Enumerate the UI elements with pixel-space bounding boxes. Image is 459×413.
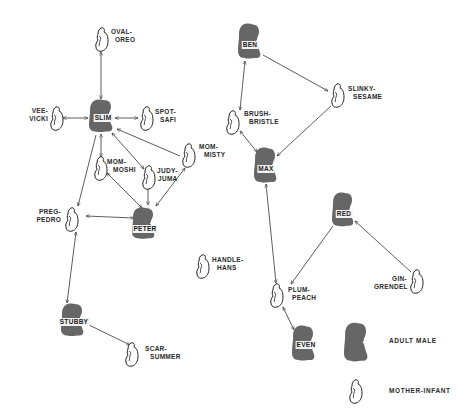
mother-infant-mom-misty [183,144,195,167]
label-preg-pedro: PREG-PEDRO [28,208,61,224]
legend-mother-infant-label: MOTHER-INFANT [389,387,451,394]
mother-infant-judy-juma [143,166,155,189]
label-scar-summer: SCAR-SUMMER [145,345,181,361]
edge-red-plum-peach [291,226,333,284]
label-vee-vicki: VEE-VICKI [18,107,48,123]
label-judy-juma: JUDY-JUMA [157,167,178,183]
mother-infant-spot-safi [141,107,153,130]
label-stubby: STUBBY [59,318,90,326]
mother-infant-handle-hans [197,255,209,278]
edge-gin-grendel-red [355,221,411,272]
label-slim: SLIM [94,114,113,122]
mother-infant-vee-vicki [51,107,63,130]
label-spot-safi: SPOT-SAFI [155,108,176,124]
legend-adult-male-label: ADULT MALE [389,337,437,344]
label-oval-oreo: OVAL-OREO [111,28,135,44]
label-brush-bristle: BRUSH-BRISTLE [244,110,279,126]
mother-infant-preg-pedro [66,208,78,231]
mother-infant-scar-summer [126,343,138,366]
legend-adult-male-icon [344,323,367,362]
edge-slim-preg-pedro [78,135,96,206]
edge-stubby-scar-summer [85,323,130,345]
mother-infant-mom-moshi [95,157,107,180]
label-even: EVEN [296,341,317,349]
edge-max-plum-peach [266,184,276,283]
label-max: MAX [257,165,274,173]
label-peter: PETER [132,225,157,233]
mother-infant-gin-grendel [411,270,423,293]
label-plum-peach: PLUM-PEACH [288,286,316,302]
mother-infant-slinky-sesame [332,84,344,107]
edge-mom-misty-slim [117,129,180,156]
edge-mom-moshi-peter [107,173,142,208]
mother-infant-brush-bristle [227,111,239,134]
label-ben: BEN [242,41,259,49]
social-network-diagram [0,0,459,413]
edge-brush-bristle-max [240,131,257,152]
mother-infant-plum-peach [271,284,283,307]
edge-preg-pedro-peter [86,216,134,218]
edge-slinky-sesame-max [277,106,331,156]
label-mom-misty: MOM-MISTY [199,143,225,159]
adult-male-peter [132,208,154,239]
label-gin-grendel: GIN-GRENDEL [374,275,407,291]
label-handle-hans: HANDLE-HANS [212,256,243,272]
label-mom-moshi: MOM-MOSHI [107,158,136,174]
edge-preg-pedro-stubby [67,232,76,303]
label-slinky-sesame: SLINKY-SESAME [348,85,382,101]
label-red: RED [336,210,353,218]
mother-infant-oval-oreo [96,28,108,51]
edge-ben-brush-bristle [240,61,245,110]
legend-mother-infant-icon [350,380,362,403]
edge-ben-slinky-sesame [263,55,328,91]
edge-plum-peach-even [283,307,294,330]
